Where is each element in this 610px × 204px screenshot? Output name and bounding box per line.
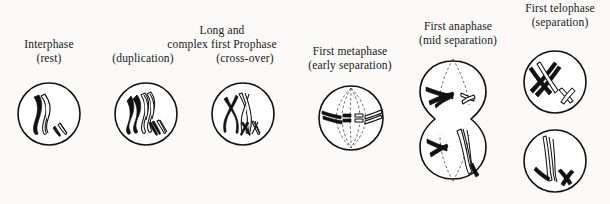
label-anaphase-line1: First anaphase (424, 20, 492, 32)
metaphase-cell-drawing (313, 80, 389, 156)
chromosome-metaphase-light-a (355, 114, 363, 117)
anaphase-cell-drawing (413, 57, 493, 185)
label-telophase: First telophase (separation) (512, 2, 608, 29)
meiosis-figure: Interphase (rest) Long and complex first… (0, 0, 610, 204)
label-telophase-line2: (separation) (512, 16, 608, 30)
label-interphase-line1: Interphase (24, 38, 73, 50)
cell-panel-prophase-crossover (208, 79, 278, 149)
label-anaphase-line2: (mid separation) (406, 34, 510, 48)
chromosome-metaphase-light-b (355, 119, 363, 122)
chromosome-metaphase-dark-d (343, 119, 351, 122)
label-crossover: (cross-over) (200, 52, 290, 66)
label-metaphase-line1: First metaphase (313, 45, 388, 57)
label-metaphase: First metaphase (early separation) (297, 45, 403, 72)
cell-panel-telophase-upper (518, 46, 592, 118)
label-anaphase: First anaphase (mid separation) (406, 20, 510, 47)
label-interphase: Interphase (rest) (4, 38, 94, 65)
label-prophase-line2: complex first Prophase (140, 38, 304, 52)
interphase-cell-drawing (14, 79, 84, 149)
label-metaphase-line2: (early separation) (297, 59, 403, 73)
telophase-upper-cell-drawing (518, 46, 592, 118)
cell-panel-telophase-lower (518, 125, 592, 199)
cell-panel-metaphase (313, 80, 389, 156)
label-telophase-line1: First telophase (525, 2, 595, 14)
cell-membrane (524, 51, 586, 113)
cell-panel-anaphase (413, 57, 493, 185)
label-interphase-line2: (rest) (4, 52, 94, 66)
prophase-duplication-cell-drawing (111, 79, 181, 149)
cell-panel-interphase (14, 79, 84, 149)
label-crossover-text: (cross-over) (216, 52, 273, 64)
cell-membrane-dumbbell (420, 61, 486, 179)
label-duplication-text: (duplication) (112, 52, 173, 64)
cell-panel-prophase-duplication (111, 79, 181, 149)
label-duplication: (duplication) (98, 52, 188, 66)
telophase-lower-cell-drawing (518, 125, 592, 199)
chromosome-metaphase-dark-c (343, 114, 351, 117)
prophase-crossover-cell-drawing (208, 79, 278, 149)
label-prophase-main: Long and complex first Prophase (140, 24, 304, 51)
label-prophase-line1: Long and (200, 24, 245, 36)
